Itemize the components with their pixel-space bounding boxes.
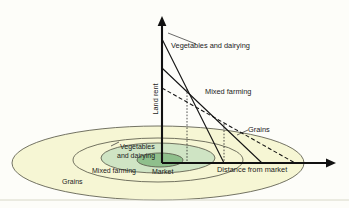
- grains-curve-label: Grains: [248, 125, 270, 134]
- grains-ring-label: Grains: [62, 178, 83, 185]
- vegetables-ring-label-line2: and dairying: [117, 152, 155, 160]
- mixed-farming-curve-label: Mixed farming: [205, 87, 251, 96]
- diagram-canvas: Vegetables and dairying Mixed farming Gr…: [0, 0, 349, 208]
- arrow-right-icon: [326, 159, 336, 168]
- von-thunen-diagram: Vegetables and dairying Mixed farming Gr…: [0, 0, 349, 208]
- market-label: Market: [152, 168, 173, 175]
- arrow-up-icon: [158, 16, 167, 26]
- vegetables-ring-label-line1: Vegetables: [120, 143, 155, 151]
- mixed-farming-ring-label: Mixed farming: [92, 167, 136, 175]
- y-axis-label: Land rent: [151, 83, 160, 114]
- vegetables-curve-label: Vegetables and dairying: [171, 41, 250, 50]
- x-axis-label: Distance from market: [217, 165, 287, 174]
